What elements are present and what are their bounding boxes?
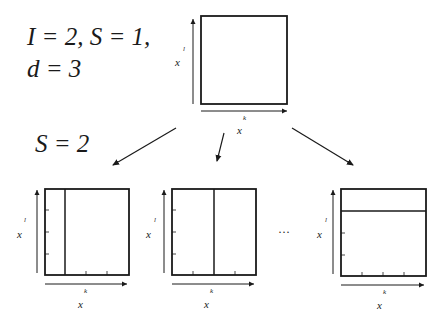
y-axis-sup: l: [154, 216, 156, 224]
y-axis-sup: l: [183, 45, 185, 53]
x-axis-sup: k: [383, 288, 387, 296]
x-axis-label: x: [77, 298, 83, 310]
child-grid-3: l x k x: [316, 189, 426, 311]
x-axis-label: x: [376, 299, 382, 311]
y-axis-label: x: [174, 56, 180, 68]
child-grid-2: l x k x: [145, 189, 256, 310]
y-axis-label: x: [145, 228, 151, 240]
ellipsis: ···: [278, 225, 290, 239]
dimension-label: d = 3: [27, 55, 81, 82]
x-axis-sup: k: [243, 114, 247, 122]
child-grid-box: [341, 189, 426, 276]
grid-split-diagram: I = 2, S = 1, d = 3 S = 2 l x k x l x k …: [0, 0, 447, 325]
arrow-middle-icon: [217, 133, 224, 161]
y-axis-sup: l: [24, 216, 26, 224]
split-label: S = 2: [35, 130, 89, 157]
x-axis-label: x: [203, 298, 209, 310]
arrow-left-icon: [113, 128, 176, 165]
x-axis-sup: k: [210, 287, 214, 295]
arrow-right-icon: [292, 128, 353, 165]
x-axis-sup: k: [84, 287, 88, 295]
top-grid-box: [201, 16, 287, 104]
params-label: I = 2, S = 1,: [26, 23, 150, 50]
top-grid: l x k x: [174, 16, 287, 136]
child-grid-box: [45, 189, 129, 275]
y-axis-label: x: [316, 228, 322, 240]
y-axis-label: x: [16, 228, 22, 240]
y-axis-sup: l: [325, 216, 327, 224]
x-axis-label: x: [236, 124, 242, 136]
child-grid-1: l x k x: [16, 189, 129, 310]
